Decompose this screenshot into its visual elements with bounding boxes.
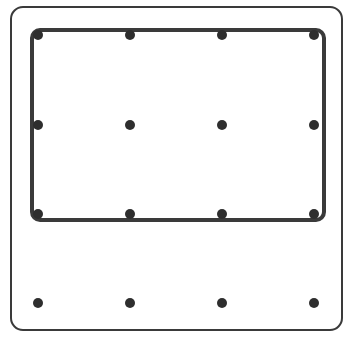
dot-grid: [33, 30, 319, 308]
grid-dot-r0-c2: [217, 30, 227, 40]
grid-dot-r3-c2: [217, 298, 227, 308]
grid-dot-r1-c3: [309, 120, 319, 130]
grid-dot-r3-c0: [33, 298, 43, 308]
grid-dot-r0-c3: [309, 30, 319, 40]
grid-dot-r1-c0: [33, 120, 43, 130]
grid-dot-r3-c3: [309, 298, 319, 308]
diagram-canvas: [0, 0, 350, 337]
grid-dot-r1-c2: [217, 120, 227, 130]
grid-dot-r0-c1: [125, 30, 135, 40]
grid-dot-r2-c0: [33, 209, 43, 219]
grid-dot-r1-c1: [125, 120, 135, 130]
inner-frame: [32, 30, 324, 220]
grid-dot-r0-c0: [33, 30, 43, 40]
grid-dot-r2-c1: [125, 209, 135, 219]
outer-frame: [11, 7, 342, 330]
grid-dot-r3-c1: [125, 298, 135, 308]
grid-dot-r2-c3: [309, 209, 319, 219]
grid-dot-r2-c2: [217, 209, 227, 219]
